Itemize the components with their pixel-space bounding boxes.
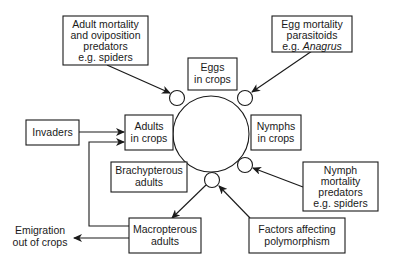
emigration-line-2: out of crops	[13, 236, 68, 248]
eg-prefix: e.g.	[282, 40, 302, 52]
polymorphism-line-2: polymorphism	[264, 235, 330, 247]
invaders-label: Invaders	[32, 126, 72, 138]
brachypterous-line-1: Brachypterous	[115, 164, 183, 176]
macropterous-line-1: Macropterous	[133, 223, 197, 235]
polymorphism-line-1: Factors affecting	[258, 223, 336, 235]
adults-line-1: Adults	[134, 120, 163, 132]
nymph-mortality-box: Nymph mortality predators e.g. spiders	[303, 162, 378, 211]
nymph-mortality-node	[238, 158, 253, 173]
egg-mortality-node	[238, 91, 253, 106]
brachypterous-adults-box: Brachypterous adults	[111, 162, 187, 192]
adults-in-crops-box: Adults in crops	[125, 115, 173, 150]
invaders-box: Invaders	[26, 120, 79, 145]
eggs-line-1: Eggs	[201, 61, 225, 73]
life-cycle-circle	[173, 96, 249, 172]
emigration-line-1: Emigration	[15, 224, 65, 236]
anagrus-genus: Anagrus	[302, 40, 343, 52]
emigration-label: Emigration out of crops	[13, 224, 68, 248]
macropterous-line-2: adults	[151, 235, 179, 247]
nymph-mortality-line-4: e.g. spiders	[313, 197, 367, 209]
egg-mortality-box: Egg mortality parasitoids e.g. Anagrus	[272, 16, 352, 52]
arrow-nymph-mortality	[253, 168, 303, 187]
arrow-adult-mortality	[107, 65, 170, 93]
adult-mortality-box: Adult mortality and oviposition predator…	[63, 16, 148, 65]
brachypterous-line-2: adults	[135, 176, 163, 188]
leafhopper-population-diagram: Adult mortality and oviposition predator…	[0, 0, 396, 269]
factors-polymorphism-box: Factors affecting polymorphism	[249, 218, 345, 253]
arrow-egg-mortality	[252, 51, 312, 92]
eggs-in-crops-box: Eggs in crops	[188, 58, 237, 90]
polymorphism-node	[205, 173, 220, 188]
adult-mortality-node	[170, 91, 185, 106]
nymphs-line-2: in crops	[258, 132, 295, 144]
egg-mortality-line-3: e.g. Anagrus	[282, 40, 342, 52]
nymphs-line-1: Nymphs	[257, 120, 296, 132]
arrow-polymorphism	[219, 186, 250, 218]
adult-mortality-line-4: e.g. spiders	[78, 51, 132, 63]
nymphs-in-crops-box: Nymphs in crops	[251, 115, 301, 150]
adults-line-2: in crops	[131, 132, 168, 144]
eggs-line-2: in crops	[194, 73, 231, 85]
macropterous-adults-box: Macropterous adults	[129, 218, 201, 253]
